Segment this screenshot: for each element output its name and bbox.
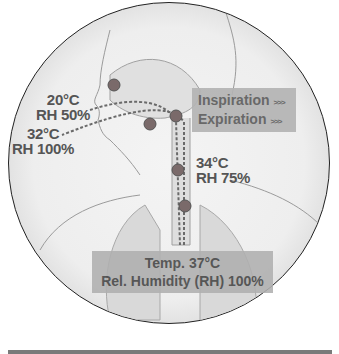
legend-expiration-label: Expiration: [198, 111, 266, 127]
anatomy-illustration: [0, 0, 339, 354]
arrow-icon: >>>: [270, 117, 281, 126]
arrow-icon: >>>: [274, 98, 285, 107]
legend-inspiration: Inspiration>>>: [198, 92, 285, 108]
legend: Inspiration>>> Expiration>>>: [192, 88, 296, 132]
alveolar-conditions-box: Temp. 37°C Rel. Humidity (RH) 100%: [92, 251, 273, 293]
ambient-temp: 20°C: [36, 92, 90, 107]
mouth-marker: [144, 118, 156, 130]
trachea-temp-label: 34°C RH 75%: [196, 155, 250, 185]
legend-inspiration-label: Inspiration: [198, 92, 270, 108]
exhaled-temp: 32°C: [12, 126, 74, 141]
bottom-divider-bar: [8, 350, 332, 354]
exhaled-rh: RH 100%: [12, 141, 74, 156]
pharynx-marker: [170, 110, 182, 122]
trachea-temp: 34°C: [196, 155, 250, 170]
alveolar-rh: Rel. Humidity (RH) 100%: [92, 273, 273, 289]
alveolar-temp: Temp. 37°C: [92, 255, 273, 271]
legend-expiration: Expiration>>>: [198, 111, 281, 127]
exhaled-temp-label: 32°C RH 100%: [12, 126, 74, 156]
ambient-rh: RH 50%: [36, 107, 90, 122]
trachea-rh: RH 75%: [196, 170, 250, 185]
ambient-temp-label: 20°C RH 50%: [36, 92, 90, 122]
trachea: [172, 118, 190, 245]
trachea-marker-upper: [172, 164, 184, 176]
trachea-marker-lower: [179, 200, 191, 212]
nose-marker: [108, 79, 120, 91]
expiration-flow: [62, 110, 184, 245]
